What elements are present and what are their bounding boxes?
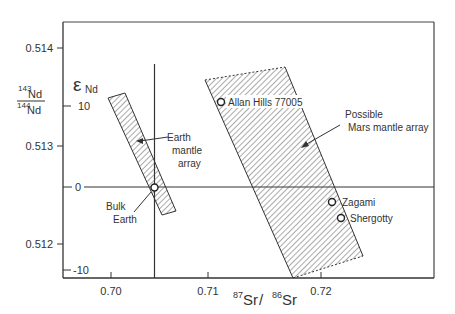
isotope-chart: 0.514 0.513 0.512 10 0 -10 0.70 0.71 0.7…: [0, 0, 455, 314]
label-shergotty: Shergotty: [350, 213, 393, 224]
svg-text:/: /: [259, 291, 264, 308]
y-tick-0513: 0.513: [25, 140, 53, 152]
earth-mantle-array-region: [108, 93, 176, 215]
epsilon-nd-label: ε Nd: [73, 74, 98, 95]
point-allan-hills: [218, 99, 225, 106]
y-left-ticks: 0.514 0.513 0.512: [25, 42, 63, 250]
svg-text:86: 86: [272, 290, 282, 300]
svg-text:Earth: Earth: [167, 132, 191, 143]
label-zagami: Zagami: [342, 197, 375, 208]
eps-tick-0: 0: [75, 181, 81, 193]
svg-text:Nd: Nd: [85, 84, 98, 95]
svg-text:mantle: mantle: [172, 145, 202, 156]
svg-text:Bulk: Bulk: [106, 201, 126, 212]
svg-text:array: array: [178, 158, 201, 169]
svg-text:Earth: Earth: [113, 214, 137, 225]
point-zagami: [329, 199, 336, 206]
point-shergotty: [338, 215, 345, 222]
svg-text:87: 87: [233, 290, 243, 300]
svg-text:ε: ε: [73, 74, 82, 95]
svg-text:Nd: Nd: [28, 88, 42, 100]
label-allan-hills: Allan Hills 77005: [228, 97, 303, 108]
eps-tick-10: 10: [78, 100, 90, 112]
y-tick-0514: 0.514: [25, 42, 53, 54]
y-tick-0512: 0.512: [25, 238, 53, 250]
svg-text:Nd: Nd: [27, 104, 41, 116]
svg-text:Mars mantle array: Mars mantle array: [348, 122, 429, 133]
x-tick-072: 0.72: [310, 285, 331, 297]
y-inner-ticks: 10 0 -10: [63, 100, 90, 276]
x-tick-071: 0.71: [197, 285, 218, 297]
bulk-earth-annotation: Bulk Earth: [106, 192, 151, 225]
svg-text:Sr: Sr: [282, 291, 297, 308]
svg-text:Possible: Possible: [345, 109, 383, 120]
eps-tick-minus10: -10: [73, 264, 89, 276]
point-bulk-earth: [151, 184, 158, 191]
x-axis-label: 87 Sr / 86 Sr: [233, 290, 297, 308]
svg-text:Sr: Sr: [243, 291, 258, 308]
y-left-axis-label: 143 Nd 144 Nd: [17, 84, 45, 116]
x-tick-070: 0.70: [100, 285, 121, 297]
mars-array-annotation: Possible Mars mantle array: [301, 109, 429, 148]
